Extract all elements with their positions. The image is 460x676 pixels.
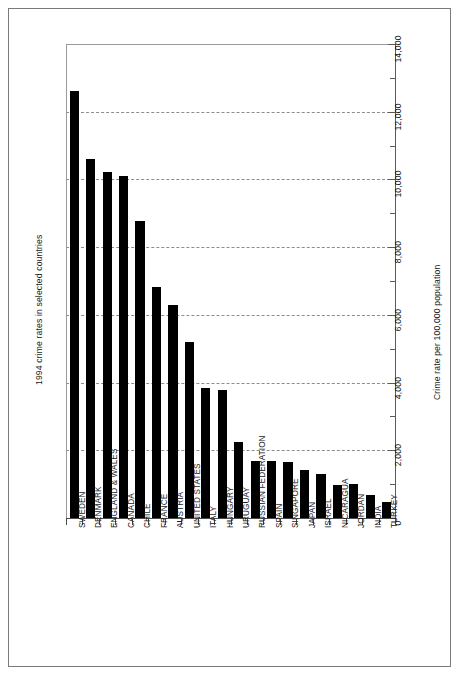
category-axis-label: RUSSIAN FEDERATION	[258, 435, 267, 528]
category-axis-label: AUSTRIA	[176, 492, 185, 528]
category-axis-label: FRANCE	[160, 494, 169, 528]
bar	[152, 287, 161, 518]
category-axis-label: TURKEY	[390, 494, 399, 528]
bars-layer	[66, 44, 395, 518]
chart-page: 02,0004,0006,0008,00010,00012,00014,000 …	[0, 0, 460, 676]
category-axis-label: NICARAGUA	[341, 478, 350, 528]
bar	[135, 221, 144, 518]
category-axis-label: INDIA	[374, 506, 383, 528]
category-axis-label: SINGAPORE	[291, 478, 300, 528]
category-axis-label: HUNGARY	[226, 487, 235, 529]
bar	[70, 91, 79, 518]
category-axis-label: UNITED STATES	[193, 463, 202, 528]
category-axis-label: JORDAN	[357, 494, 366, 528]
category-axis-label: CHILE	[143, 503, 152, 528]
bar	[86, 159, 95, 518]
bar	[119, 176, 128, 518]
bar-chart: 02,0004,0006,0008,00010,00012,00014,000 …	[0, 0, 460, 676]
bar	[168, 305, 177, 518]
category-axis-label: ISRAEL	[324, 498, 333, 528]
bar	[201, 388, 210, 518]
category-axis-label: URUGUAY	[242, 487, 251, 528]
category-axis-label: DENMARK	[94, 486, 103, 528]
category-axis-label: ITALY	[209, 506, 218, 528]
category-axis-label: ENGLAND & WALES	[110, 449, 119, 528]
value-axis-title: Crime rate per 100,000 population	[432, 265, 442, 400]
category-axis-label: SPAIN	[275, 504, 284, 528]
category-axis-tick	[66, 519, 67, 525]
category-axis-label: SWEDEN	[78, 491, 87, 528]
chart-title: 1994 crime rates in selected countries	[34, 235, 44, 385]
category-axis-label: CANADA	[127, 493, 136, 528]
category-axis-label: JAPAN	[308, 502, 317, 528]
